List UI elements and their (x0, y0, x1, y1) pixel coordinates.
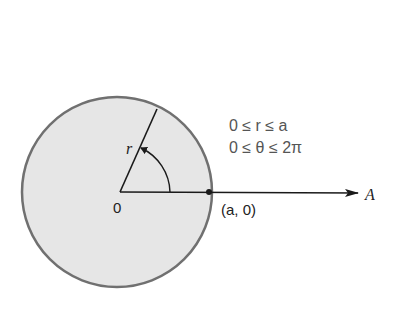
polar-disk-diagram: 0 r (a, 0) A 0 ≤ r ≤ a 0 ≤ θ ≤ 2π (0, 0, 405, 309)
axis-label: A (364, 186, 375, 203)
point-a0 (206, 189, 212, 195)
condition-theta: 0 ≤ θ ≤ 2π (229, 139, 302, 156)
point-label: (a, 0) (221, 201, 256, 218)
origin-label: 0 (113, 199, 121, 216)
radius-label: r (126, 140, 133, 157)
polar-axis (120, 192, 358, 193)
condition-r: 0 ≤ r ≤ a (229, 117, 288, 134)
